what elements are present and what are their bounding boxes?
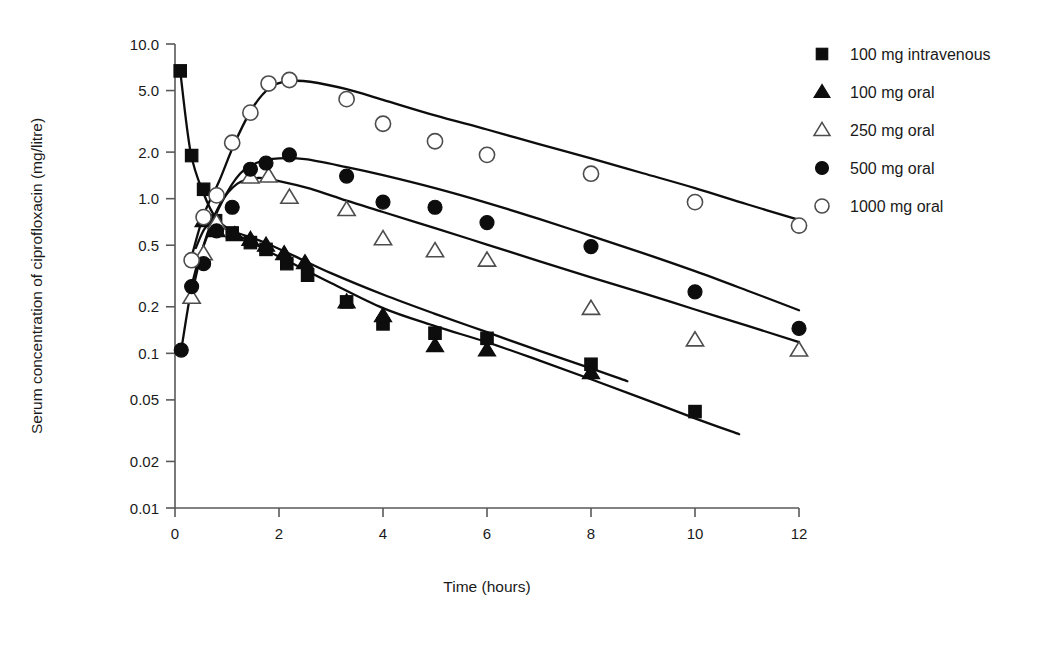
y-tick-label: 1.0 <box>138 190 159 207</box>
y-tick-label: 2.0 <box>138 144 159 161</box>
legend-item-label: 250 mg oral <box>850 122 935 139</box>
data-point <box>687 195 702 210</box>
x-tick-label: 8 <box>587 525 595 542</box>
data-point <box>792 321 806 335</box>
y-tick-label: 0.01 <box>130 500 159 517</box>
data-point <box>185 280 199 294</box>
data-point <box>301 269 313 281</box>
y-tick-label: 0.5 <box>138 237 159 254</box>
data-point <box>185 149 197 161</box>
y-tick-label: 0.02 <box>130 453 159 470</box>
x-tick-label: 6 <box>483 525 491 542</box>
data-point <box>259 156 273 170</box>
data-point <box>340 169 354 183</box>
y-tick-label: 0.1 <box>138 345 159 362</box>
y-tick-label: 0.05 <box>130 391 159 408</box>
data-point <box>197 183 209 195</box>
x-tick-label: 12 <box>791 525 808 542</box>
data-point <box>339 92 354 107</box>
data-point <box>688 285 702 299</box>
y-tick-label: 5.0 <box>138 82 159 99</box>
legend-item-label: 500 mg oral <box>850 160 935 177</box>
data-point <box>243 105 258 120</box>
x-tick-label: 10 <box>687 525 704 542</box>
data-point <box>583 166 598 181</box>
legend-marker-icon <box>815 199 829 213</box>
data-point <box>174 343 188 357</box>
y-tick-label: 0.2 <box>138 298 159 315</box>
data-point <box>196 210 211 225</box>
data-point <box>225 135 240 150</box>
data-point <box>282 148 296 162</box>
y-tick-label: 10.0 <box>130 36 159 53</box>
data-point <box>375 116 390 131</box>
data-point <box>243 162 257 176</box>
chart-svg: 10.05.02.01.00.50.20.10.050.020.01024681… <box>0 0 1060 646</box>
data-point <box>210 224 224 238</box>
data-point <box>209 188 224 203</box>
data-point <box>791 218 806 233</box>
legend-item-label: 100 mg intravenous <box>850 46 991 63</box>
data-point <box>261 76 276 91</box>
data-point <box>282 72 297 87</box>
data-point <box>689 405 701 417</box>
data-point <box>584 240 598 254</box>
x-tick-label: 4 <box>379 525 387 542</box>
x-tick-label: 0 <box>171 525 179 542</box>
data-point <box>225 200 239 214</box>
y-axis-title: Serum concentration of ciprofloxacin (mg… <box>28 118 45 434</box>
legend-marker-icon <box>816 48 827 59</box>
x-tick-label: 2 <box>275 525 283 542</box>
legend-item-label: 1000 mg oral <box>850 198 943 215</box>
data-point <box>184 253 199 268</box>
data-point <box>174 65 186 77</box>
x-axis-title: Time (hours) <box>443 578 530 595</box>
data-point <box>428 200 442 214</box>
data-point <box>376 195 390 209</box>
legend-item-label: 100 mg oral <box>850 84 935 101</box>
data-point <box>427 134 442 149</box>
data-point <box>480 216 494 230</box>
chart-figure: 10.05.02.01.00.50.20.10.050.020.01024681… <box>0 0 1060 646</box>
data-point <box>479 147 494 162</box>
legend-marker-icon <box>816 162 829 175</box>
